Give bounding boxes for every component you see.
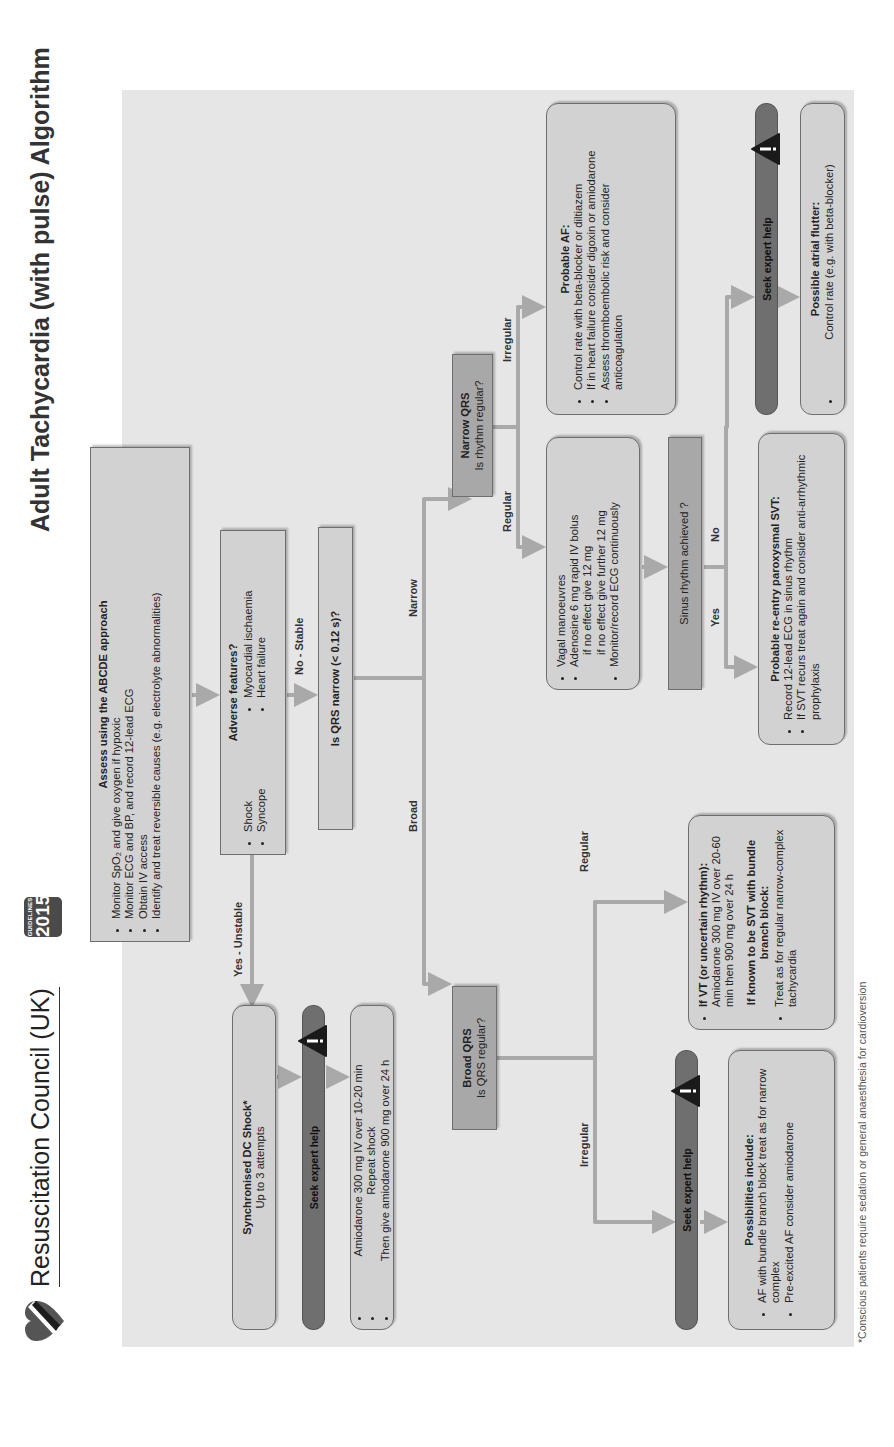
vt-item: If VT (or uncertain rhythm): Amiodarone … (697, 824, 737, 1007)
reentry-item: Record 12-lead ECG in sinus rhythm (782, 444, 795, 720)
possibilities-list: AF with bundle branch block treat as for… (756, 1063, 796, 1317)
assess-box: Assess using the ABCDE approach Monitor … (90, 447, 190, 942)
warning-icon (298, 1025, 328, 1057)
algorithm-canvas: Resuscitation Council (UK) GUIDELINES 20… (0, 0, 894, 1447)
assess-item: Monitor SpO₂ and give oxygen if hypoxic (110, 456, 123, 919)
sinus-rhythm-question-box: Sinus rhythm achieved ? (668, 437, 702, 690)
reentry-list: Record 12-lead ECG in sinus rhythm If SV… (782, 444, 822, 734)
probable-af-title: Probable AF: (559, 114, 572, 404)
vagal-subitem: if no effect give 12 mg (581, 446, 594, 667)
adverse-features-box: Adverse features? Shock Syncope Myocardi… (220, 530, 286, 855)
broad-qrs-title: Broad QRS (461, 995, 474, 1121)
narrow-qrs-box: Narrow QRS Is rhythm regular? (452, 354, 493, 497)
label-irregular-broad: Irregular (578, 1122, 590, 1167)
reentry-item: If SVT recurs treat again and consider a… (795, 444, 821, 720)
reentry-title: Probable re-entry paroxysmal SVT: (769, 444, 782, 734)
possibilities-box: Possibilities include: AF with bundle br… (728, 1050, 835, 1330)
reentry-svt-box: Probable re-entry paroxysmal SVT: Record… (758, 433, 845, 745)
probable-af-box: Probable AF: Control rate with beta-bloc… (546, 103, 676, 415)
vagal-item: Vagal manoeuvres (555, 446, 568, 667)
label-regular-narrow: Regular (501, 491, 513, 532)
vagal-list: Vagal manoeuvres Adenosine 6 mg rapid IV… (555, 446, 621, 681)
flutter-title: Possible atrial flutter: (809, 114, 822, 404)
broad-qrs-question: Is QRS regular? (475, 995, 488, 1121)
vagal-item: Monitor/record ECG continuously (608, 446, 621, 667)
vagal-subitem: if no effect give further 12 mg (595, 446, 608, 667)
label-irregular-narrow: Irregular (501, 317, 513, 362)
vagal-adenosine-box: Vagal manoeuvres Adenosine 6 mg rapid IV… (546, 437, 640, 690)
label-regular-broad: Regular (578, 831, 590, 872)
narrow-qrs-title: Narrow QRS (459, 363, 472, 488)
label-no-stable: No - Stable (293, 618, 305, 675)
assess-item: Identify and treat reversible causes (e.… (150, 456, 163, 919)
amiodarone-item: Repeat shock (365, 1014, 378, 1307)
flutter-list: Control rate (e.g. with beta-blocker) (823, 114, 836, 404)
vt-svt-title: If known to be SVT with bundle branch bl… (745, 824, 771, 1021)
vt-list: If VT (or uncertain rhythm): Amiodarone … (697, 824, 737, 1021)
probable-af-item: Assess thromboembolic risk and consider … (599, 114, 625, 390)
assess-list: Monitor SpO₂ and give oxygen if hypoxic … (110, 456, 163, 933)
adverse-item: Shock (242, 742, 255, 832)
label-no: No (709, 527, 721, 542)
amiodarone-list: Amiodarone 300 mg IV over 10-20 min Repe… (352, 1014, 392, 1321)
adverse-list-left: Shock Syncope (242, 742, 268, 846)
vt-svt-text: Treat as for regular narrow-complex tach… (773, 824, 799, 1007)
amiodarone-item: Then give amiodarone 900 mg over 24 h (379, 1014, 392, 1307)
broad-qrs-box: Broad QRS Is QRS regular? (452, 986, 497, 1130)
adverse-title: Adverse features? (227, 539, 240, 846)
probable-af-list: Control rate with beta-blocker or diltia… (572, 114, 625, 404)
warning-icon (751, 133, 781, 165)
possibilities-item: AF with bundle branch block treat as for… (756, 1063, 782, 1303)
vagal-item: Adenosine 6 mg rapid IV bolus (568, 446, 581, 667)
label-yes: Yes (709, 608, 721, 627)
vt-svt-list: Treat as for regular narrow-complex tach… (773, 824, 799, 1021)
adverse-list-right: Myocardial ischaemia Heart failure (242, 590, 268, 712)
probable-af-item: If in heart failure consider digoxin or … (585, 114, 598, 390)
label-yes-unstable: Yes - Unstable (232, 902, 244, 977)
vt-text: Amiodarone 300 mg IV over 20-60 min then… (710, 824, 736, 1007)
vt-title: If VT (or uncertain rhythm): (697, 824, 710, 1007)
adverse-item: Syncope (255, 742, 268, 832)
dc-shock-box: Synchronised DC Shock* Up to 3 attempts (232, 1005, 276, 1330)
vt-box: If VT (or uncertain rhythm): Amiodarone … (688, 815, 835, 1030)
warning-icon (671, 1075, 701, 1107)
qrs-narrow-question-box: Is QRS narrow (< 0.12 s)? (318, 527, 353, 830)
narrow-qrs-question: Is rhythm regular? (473, 363, 486, 488)
label-broad: Broad (407, 800, 419, 832)
atrial-flutter-box: Possible atrial flutter: Control rate (e… (800, 103, 845, 415)
dc-shock-title: Synchronised DC Shock* (241, 1010, 254, 1325)
assess-item: Monitor ECG and BP, and record 12-lead E… (123, 456, 136, 919)
adverse-item: Myocardial ischaemia (242, 590, 255, 698)
label-narrow: Narrow (407, 579, 419, 617)
footnote: *Conscious patients require sedation or … (856, 783, 868, 1343)
possibilities-title: Possibilities include: (743, 1063, 756, 1317)
probable-af-item: Control rate with beta-blocker or diltia… (572, 114, 585, 390)
amiodarone-item: Amiodarone 300 mg IV over 10-20 min (352, 1014, 365, 1307)
assess-item: Obtain IV access (137, 456, 150, 919)
adverse-item: Heart failure (255, 590, 268, 698)
possibilities-item: Pre-excited AF consider amiodarone (783, 1063, 796, 1303)
assess-title: Assess using the ABCDE approach (97, 456, 110, 933)
flutter-item: Control rate (e.g. with beta-blocker) (823, 114, 836, 390)
dc-shock-subtitle: Up to 3 attempts (254, 1010, 267, 1325)
amiodarone-box: Amiodarone 300 mg IV over 10-20 min Repe… (350, 1005, 394, 1330)
